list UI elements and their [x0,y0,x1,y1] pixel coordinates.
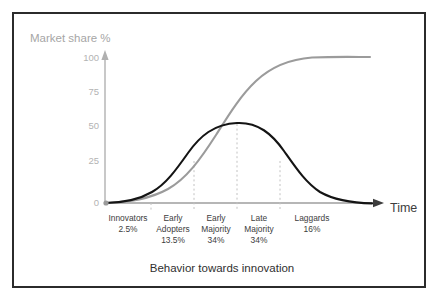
figure-caption: Behavior towards innovation [150,262,294,274]
origin-marker [103,200,108,205]
category-label-late-majority: Late Majority 34% [244,213,274,245]
y-tick-label-50: 50 [88,120,99,131]
x-axis-arrow-icon [373,199,384,207]
category-label-line-3: 34% [208,235,225,245]
category-label-line-1: Laggards [295,213,330,223]
category-label-line-1: Late [251,213,268,223]
y-axis [101,50,108,203]
series-cumulative-s-curve [106,57,370,203]
y-tick-label-25: 25 [88,155,99,166]
series-adoption-bell-curve [106,123,372,203]
category-label-early-adopters: Early Adopters 13.5% [156,213,190,245]
category-label-laggards: Laggards 16% [295,213,330,234]
y-tick-label-0: 0 [94,197,99,208]
category-label-line-3: 13.5% [161,235,185,245]
category-label-line-2: Majority [201,224,231,234]
category-label-line-2: Majority [244,224,274,234]
diffusion-of-innovation-figure: Market share % 100 75 50 25 0 Time [0,0,441,306]
category-label-line-2: 16% [304,224,321,234]
category-label-line-1: Innovators [108,213,147,223]
category-label-innovators: Innovators 2.5% [108,213,147,234]
category-label-line-1: Early [206,213,226,223]
category-label-line-3: 34% [251,235,268,245]
chart-canvas: Market share % 100 75 50 25 0 Time [0,0,441,306]
category-label-line-2: Adopters [156,224,190,234]
y-axis-arrow-icon [101,50,108,60]
y-tick-label-75: 75 [88,86,99,97]
x-axis-title: Time [390,201,417,215]
category-label-early-majority: Early Majority 34% [201,213,231,245]
category-label-line-2: 2.5% [118,224,138,234]
category-label-line-1: Early [163,213,183,223]
y-tick-label-100: 100 [83,52,99,63]
y-axis-title: Market share % [30,32,111,44]
